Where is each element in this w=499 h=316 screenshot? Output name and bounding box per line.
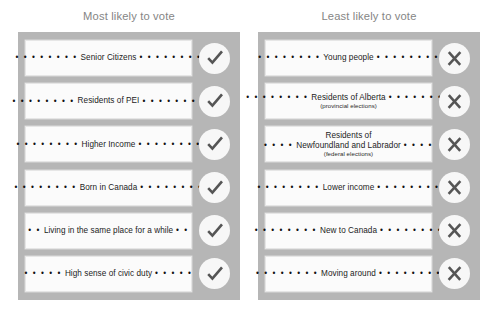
table-row[interactable]: • • • • • • • •Higher Income• • • • • • … <box>25 126 233 162</box>
trailing-dot-leader: • • • • • • • • <box>142 97 204 106</box>
trailing-dot-leader: • • • • • • • • <box>140 183 202 192</box>
group-card[interactable]: Residents of• • • •Newfoundland and Labr… <box>265 126 432 162</box>
x-icon <box>445 135 464 154</box>
trailing-dot-leader: • • • • • • • • <box>379 269 441 278</box>
table-row[interactable]: Residents of• • • •Newfoundland and Labr… <box>265 126 473 162</box>
leading-dot-leader: • • • • • • • • <box>15 183 77 192</box>
table-row[interactable]: • • • • • • • •Young people• • • • • • •… <box>265 40 473 76</box>
trailing-dot-leader: • • • • <box>404 141 433 150</box>
group-card[interactable]: • • • • • • • •New to Canada• • • • • • … <box>265 213 432 249</box>
group-card-label: Lower income <box>323 183 375 192</box>
group-card-label-row: • • • • • • • •Residents of Alberta• • •… <box>246 93 451 103</box>
group-card-label-row: • • • • • • • •Senior Citizens• • • • • … <box>15 53 201 63</box>
group-card-label: Residents of PEI <box>78 96 140 105</box>
leading-dot-leader: • • • • • • • • <box>258 183 320 192</box>
check-icon <box>205 264 225 284</box>
group-card-label-row: • • • •Newfoundland and Labrador• • • • <box>264 141 433 151</box>
group-card-sublabel: (provincial elections) <box>320 102 377 110</box>
group-card[interactable]: • • • • • • • •Senior Citizens• • • • • … <box>25 40 192 76</box>
leading-dot-leader: • • • • • • • • <box>246 93 308 102</box>
group-card[interactable]: • • • • •High sense of civic duty• • • •… <box>25 256 192 292</box>
column-least-likely-to-vote: Least likely to vote • • • • • • • •Youn… <box>258 0 480 23</box>
leading-dot-leader: • • • • • • • • <box>16 140 78 149</box>
table-row[interactable]: • •Living in the same place for a while•… <box>25 213 233 249</box>
leading-dot-leader: • • • • • • • • <box>255 226 317 235</box>
status-badge-positive[interactable] <box>199 129 230 160</box>
panel-least-likely: • • • • • • • •Young people• • • • • • •… <box>258 32 480 300</box>
trailing-dot-leader: • • • • • • • • <box>377 53 439 62</box>
group-card-label: Born in Canada <box>80 183 138 192</box>
group-card-label: Senior Citizens <box>81 53 137 62</box>
table-row[interactable]: • • • • • • • •Senior Citizens• • • • • … <box>25 40 233 76</box>
check-icon <box>205 178 225 198</box>
group-card[interactable]: • • • • • • • •Residents of Alberta• • •… <box>265 83 432 119</box>
column-title-most-likely: Most likely to vote <box>18 0 240 23</box>
group-card-label: Young people <box>323 53 373 62</box>
status-badge-positive[interactable] <box>199 258 230 289</box>
group-card[interactable]: • • • • • • • •Born in Canada• • • • • •… <box>25 170 192 206</box>
group-card-label-row: • • • • •High sense of civic duty• • • •… <box>25 269 193 279</box>
status-badge-positive[interactable] <box>199 215 230 246</box>
group-card-label-row: • •Living in the same place for a while•… <box>28 226 189 236</box>
x-icon <box>445 92 464 111</box>
group-card[interactable]: • • • • • • • •Moving around• • • • • • … <box>265 256 432 292</box>
check-icon <box>205 91 225 111</box>
x-icon <box>445 221 464 240</box>
group-card-label-row: • • • • • • • •Lower income• • • • • • •… <box>258 183 440 193</box>
group-card-label: Moving around <box>321 269 376 278</box>
group-card[interactable]: • •Living in the same place for a while•… <box>25 213 192 249</box>
leading-dot-leader: • • • • • • • • <box>258 53 320 62</box>
x-icon <box>445 264 464 283</box>
status-badge-positive[interactable] <box>199 172 230 203</box>
leading-dot-leader: • • <box>28 226 41 235</box>
leading-dot-leader: • • • • • <box>25 269 62 278</box>
status-badge-negative[interactable] <box>439 172 470 203</box>
status-badge-positive[interactable] <box>199 43 230 74</box>
group-card-label-row: • • • • • • • •Young people• • • • • • •… <box>258 53 439 63</box>
table-row[interactable]: • • • • • • • •Born in Canada• • • • • •… <box>25 170 233 206</box>
trailing-dot-leader: • • • • • • • • <box>139 53 201 62</box>
trailing-dot-leader: • • • • • <box>155 269 192 278</box>
group-card-label-row: • • • • • • • •Born in Canada• • • • • •… <box>15 183 203 193</box>
trailing-dot-leader: • • • • • • • • <box>138 140 200 149</box>
group-card-label-row: • • • • • • • •New to Canada• • • • • • … <box>255 226 442 236</box>
status-badge-negative[interactable] <box>439 86 470 117</box>
panel-most-likely: • • • • • • • •Senior Citizens• • • • • … <box>18 32 240 300</box>
group-card-label-row: • • • • • • • •Moving around• • • • • • … <box>256 269 441 279</box>
group-card[interactable]: • • • • • • • •Lower income• • • • • • •… <box>265 170 432 206</box>
group-card-label: Living in the same place for a while <box>44 226 173 235</box>
group-card[interactable]: • • • • • • • •Higher Income• • • • • • … <box>25 126 192 162</box>
leading-dot-leader: • • • • <box>264 141 293 150</box>
leading-dot-leader: • • • • • • • • <box>256 269 318 278</box>
group-card-label: High sense of civic duty <box>65 269 152 278</box>
check-icon <box>205 48 225 68</box>
x-icon <box>445 49 464 68</box>
group-card-label: Residents of Alberta <box>311 93 385 102</box>
group-card-label-row: • • • • • • • •Residents of PEI• • • • •… <box>13 96 205 106</box>
leading-dot-leader: • • • • • • • • <box>15 53 77 62</box>
group-card-label: Newfoundland and Labrador <box>296 141 401 150</box>
check-icon <box>205 221 225 241</box>
status-badge-negative[interactable] <box>439 258 470 289</box>
group-card[interactable]: • • • • • • • •Young people• • • • • • •… <box>265 40 432 76</box>
table-row[interactable]: • • • • •High sense of civic duty• • • •… <box>25 256 233 292</box>
trailing-dot-leader: • • • • • • • • <box>377 183 439 192</box>
table-row[interactable]: • • • • • • • •Residents of PEI• • • • •… <box>25 83 233 119</box>
status-badge-negative[interactable] <box>439 215 470 246</box>
status-badge-positive[interactable] <box>199 86 230 117</box>
column-title-least-likely: Least likely to vote <box>258 0 480 23</box>
status-badge-negative[interactable] <box>439 129 470 160</box>
group-card-label-row: • • • • • • • •Higher Income• • • • • • … <box>16 140 200 150</box>
table-row[interactable]: • • • • • • • •New to Canada• • • • • • … <box>265 213 473 249</box>
column-most-likely-to-vote: Most likely to vote • • • • • • • •Senio… <box>18 0 240 23</box>
table-row[interactable]: • • • • • • • •Moving around• • • • • • … <box>265 256 473 292</box>
group-card-toplabel: Residents of <box>325 131 371 140</box>
table-row[interactable]: • • • • • • • •Residents of Alberta• • •… <box>265 83 473 119</box>
table-row[interactable]: • • • • • • • •Lower income• • • • • • •… <box>265 170 473 206</box>
group-card[interactable]: • • • • • • • •Residents of PEI• • • • •… <box>25 83 192 119</box>
leading-dot-leader: • • • • • • • • <box>13 97 75 106</box>
status-badge-negative[interactable] <box>439 43 470 74</box>
x-icon <box>445 178 464 197</box>
check-icon <box>205 134 225 154</box>
voter-likelihood-comparison-board: Most likely to vote • • • • • • • •Senio… <box>0 0 499 316</box>
